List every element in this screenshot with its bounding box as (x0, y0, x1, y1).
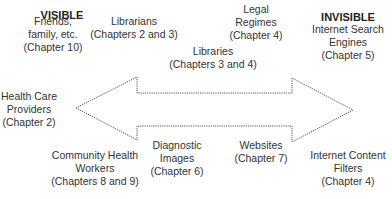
label-health-care-providers: Health Care Providers (Chapter 2) (1, 90, 57, 129)
label-internet-search-engines: Internet Search Engines (Chapter 5) (312, 23, 384, 62)
label-friends-family: Friends, family, etc. (Chapter 10) (24, 15, 83, 54)
label-libraries: Libraries (Chapters 3 and 4) (169, 45, 257, 71)
label-community-health-workers: Community Health Workers (Chapters 8 and… (51, 149, 139, 188)
label-legal-regimes: Legal Regimes (Chapter 4) (229, 3, 282, 42)
label-internet-content-filters: Internet Content Filters (Chapter 4) (310, 149, 385, 188)
label-diagnostic-images: Diagnostic Images (Chapter 6) (150, 139, 203, 178)
label-websites: Websites (Chapter 7) (234, 139, 287, 165)
label-librarians: Librarians (Chapters 2 and 3) (90, 15, 178, 41)
